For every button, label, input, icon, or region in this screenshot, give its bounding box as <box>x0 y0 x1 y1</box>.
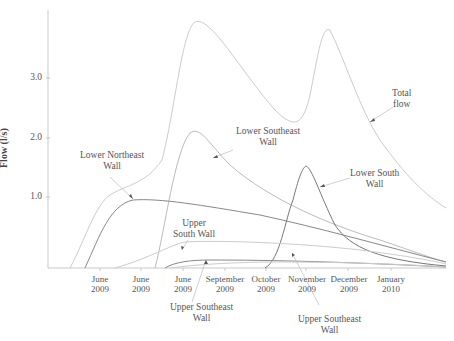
label-total-flow: Totalflow <box>392 88 411 110</box>
x-tick-7: January2010 <box>376 274 406 294</box>
x-tick-4: October2009 <box>251 274 281 294</box>
label-upper-southeast-wall-1: Upper SoutheastWall <box>170 302 233 324</box>
y-tick-3: 3.0 <box>12 72 42 82</box>
label-upper-southeast-wall-2: Upper SoutheastWall <box>298 314 361 336</box>
series-upper-southeast-wall-2 <box>170 262 446 268</box>
y-tick-2: 2.0 <box>12 132 42 142</box>
y-axis-label: Flow (l/s) <box>0 128 9 168</box>
x-tick-6: December2009 <box>330 274 368 294</box>
x-tick-3: September2009 <box>205 274 245 294</box>
x-tick-1: June2009 <box>129 274 153 294</box>
label-lower-southeast-wall: Lower SoutheastWall <box>236 126 300 148</box>
x-tick-0: June2009 <box>88 274 112 294</box>
x-tick-5: November2009 <box>288 274 326 294</box>
label-lower-south-wall: Lower SouthWall <box>350 168 399 190</box>
label-lower-northeast-wall: Lower NortheastWall <box>80 150 144 172</box>
x-tick-2: June2009 <box>171 274 195 294</box>
series-lower-southeast-wall <box>155 131 446 268</box>
y-tick-1: 1.0 <box>12 191 42 201</box>
label-upper-south-wall: UpperSouth Wall <box>173 218 215 240</box>
